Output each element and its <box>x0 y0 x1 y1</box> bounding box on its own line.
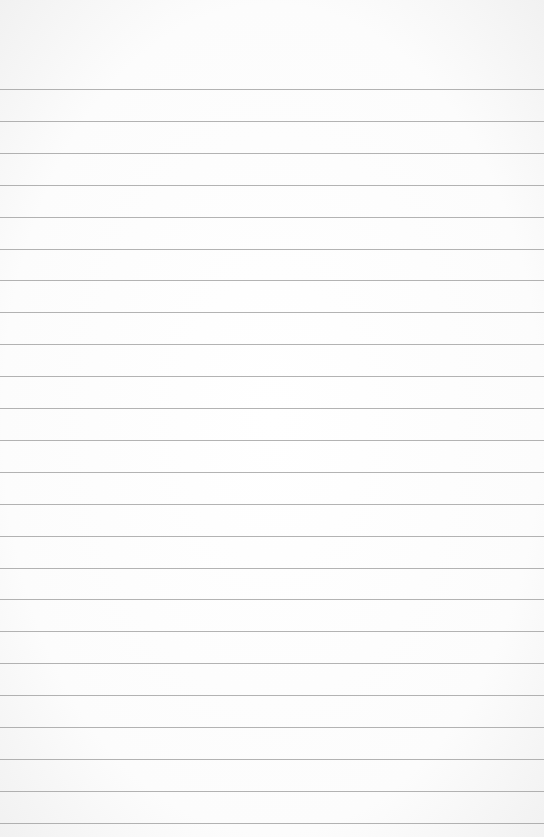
ruled-line <box>0 249 544 250</box>
ruled-line <box>0 89 544 90</box>
ruled-line <box>0 344 544 345</box>
ruled-line <box>0 440 544 441</box>
ruled-line <box>0 695 544 696</box>
ruled-line <box>0 408 544 409</box>
ruled-line <box>0 153 544 154</box>
ruled-line <box>0 599 544 600</box>
ruled-line <box>0 631 544 632</box>
ruled-line <box>0 185 544 186</box>
ruled-line <box>0 823 544 824</box>
ruled-line <box>0 472 544 473</box>
ruled-line <box>0 217 544 218</box>
ruled-line <box>0 376 544 377</box>
ruled-line <box>0 568 544 569</box>
ruled-line <box>0 727 544 728</box>
ruled-line <box>0 280 544 281</box>
ruled-line <box>0 791 544 792</box>
ruled-line <box>0 536 544 537</box>
ruled-line <box>0 504 544 505</box>
ruled-line <box>0 312 544 313</box>
ruled-line <box>0 759 544 760</box>
ruled-line <box>0 663 544 664</box>
ruled-line <box>0 121 544 122</box>
lined-paper-sheet <box>0 0 544 837</box>
